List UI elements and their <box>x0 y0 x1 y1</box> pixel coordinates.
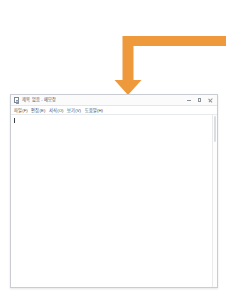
arrow-path <box>115 36 227 95</box>
arrow-shape <box>118 30 226 98</box>
scrollbar-thumb[interactable] <box>214 116 216 142</box>
maximize-button[interactable] <box>194 95 205 106</box>
orange-elbow-arrow <box>118 30 226 98</box>
document-icon <box>14 97 20 103</box>
text-editor-area[interactable] <box>11 115 212 287</box>
minimize-icon <box>187 100 191 101</box>
close-icon <box>209 98 213 102</box>
close-button[interactable] <box>205 95 216 106</box>
text-caret <box>14 118 15 123</box>
menu-bar: 파일(F) 편집(E) 서식(O) 보기(V) 도움말(H) <box>11 106 217 115</box>
vertical-scrollbar[interactable] <box>212 115 217 287</box>
menu-item-view[interactable]: 보기(V) <box>67 106 81 115</box>
menu-item-file[interactable]: 파일(F) <box>14 106 28 115</box>
minimize-button[interactable] <box>183 95 194 106</box>
window-title-bar[interactable]: 제목 없음 - 메모장 <box>11 95 217 106</box>
window-title: 제목 없음 - 메모장 <box>22 97 57 103</box>
window-body <box>11 115 217 287</box>
window-controls <box>183 95 216 106</box>
notepad-window[interactable]: 제목 없음 - 메모장 파일(F) 편집(E) 서식(O) 보기(V) 도움말(… <box>10 94 218 288</box>
menu-item-format[interactable]: 서식(O) <box>49 106 64 115</box>
maximize-icon <box>198 98 202 102</box>
menu-item-edit[interactable]: 편집(E) <box>31 106 45 115</box>
screenshot-canvas: 제목 없음 - 메모장 파일(F) 편집(E) 서식(O) 보기(V) 도움말(… <box>0 0 226 299</box>
menu-item-help[interactable]: 도움말(H) <box>85 106 103 115</box>
